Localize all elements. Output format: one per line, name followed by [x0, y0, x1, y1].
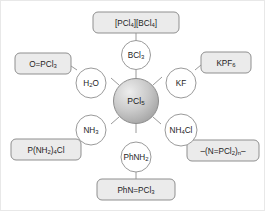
product-node-nh4cl[interactable]: –(N=PCl2)n– — [187, 140, 259, 161]
connector-center-nh3 — [111, 117, 119, 124]
diagram-canvas: [PCl4][BCl4] O=PCl3 KPF6 P(NH2)4Cl –(N=P… — [0, 0, 265, 211]
reagent-node-h2o[interactable]: H2O — [76, 68, 106, 98]
connector-center-nh4cl — [153, 117, 161, 124]
product-label-pcl4-bcl4: [PCl4][BCl4] — [115, 19, 157, 28]
reagent-label-phnh2: PhNH2 — [123, 153, 148, 162]
reagent-node-phnh2[interactable]: PhNH2 — [121, 142, 151, 172]
product-node-bcl3[interactable]: [PCl4][BCl4] — [93, 12, 179, 33]
connector-center-h2o — [111, 78, 119, 85]
reaction-scheme-diagram: [PCl4][BCl4] O=PCl3 KPF6 P(NH2)4Cl –(N=P… — [1, 1, 265, 211]
reagent-node-kf[interactable]: KF — [166, 68, 196, 98]
product-label-pnh24cl: P(NH2)4Cl — [27, 146, 64, 155]
product-label-phnpcl3: PhN=PCl3 — [117, 186, 155, 195]
product-node-kf[interactable]: KPF6 — [201, 52, 251, 73]
reagent-label-nh4cl: NH4Cl — [170, 126, 193, 135]
connector-h2o-product — [71, 66, 77, 70]
product-label-opcl3: O=PCl3 — [29, 60, 57, 69]
reagent-node-bcl3[interactable]: BCl3 — [122, 41, 151, 70]
product-node-nh3[interactable]: P(NH2)4Cl — [11, 139, 81, 160]
center-node-pcl5[interactable]: PCl5 — [114, 79, 159, 124]
product-node-phnh2[interactable]: PhN=PCl3 — [97, 179, 175, 200]
reagent-node-nh4cl[interactable]: NH4Cl — [165, 114, 197, 146]
connector-center-kf — [153, 77, 162, 85]
connector-kf-product — [195, 65, 201, 70]
reagent-label-kf: KF — [176, 79, 186, 88]
reagent-node-nh3[interactable]: NH3 — [76, 115, 106, 145]
product-node-h2o[interactable]: O=PCl3 — [15, 53, 71, 74]
